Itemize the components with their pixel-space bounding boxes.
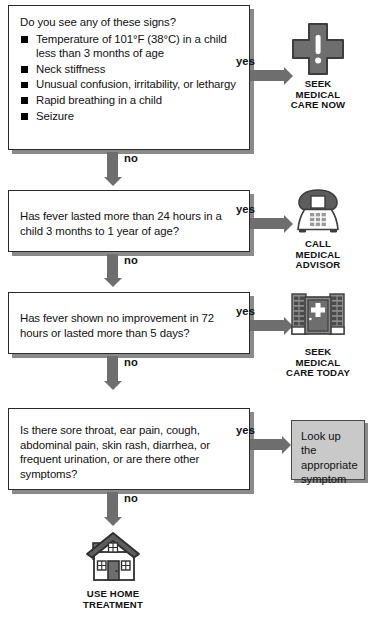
question-box-4[interactable]: Is there sore throat, ear pain, cough, a… (8, 408, 250, 490)
house-icon (71, 530, 155, 586)
outcome-caption: SEEK MEDICAL CARE NOW (276, 79, 360, 111)
edge-label-q2-yes: yes (236, 203, 255, 215)
result-box-text: Look up the appropriate symptom (301, 429, 355, 487)
outcome-seek-medical-care-now[interactable]: SEEK MEDICAL CARE NOW (276, 22, 360, 111)
edge-label-q3-yes: yes (236, 305, 255, 317)
question-2-prompt: Has fever lasted more than 24 hours in a… (20, 200, 238, 238)
outcome-seek-medical-care-today[interactable]: SEEK MEDICAL CARE TODAY (276, 292, 360, 379)
list-item: Seizure (20, 109, 238, 124)
outcome-call-medical-advisor[interactable]: CALL MEDICAL ADVISOR (276, 186, 360, 271)
question-1-prompt: Do you see any of these signs? (20, 15, 238, 30)
list-item: Temperature of 101°F (38°C) in a child l… (20, 32, 238, 61)
edge-label-q4-no: no (124, 492, 138, 504)
telephone-icon (276, 186, 360, 236)
outcome-caption: CALL MEDICAL ADVISOR (276, 239, 360, 271)
outcome-look-up-symptom[interactable]: Look up the appropriate symptom (291, 420, 365, 480)
outcome-caption: SEEK MEDICAL CARE TODAY (276, 347, 360, 379)
outcome-use-home-treatment[interactable]: USE HOME TREATMENT (71, 530, 155, 610)
cross-exclamation-icon (276, 22, 360, 76)
edge-label-q1-yes: yes (236, 55, 255, 67)
list-item: Rapid breathing in a child (20, 93, 238, 108)
question-box-3[interactable]: Has fever shown no improvement in 72 hou… (8, 292, 250, 354)
outcome-caption: USE HOME TREATMENT (71, 589, 155, 610)
question-1-signs-list: Temperature of 101°F (38°C) in a child l… (20, 32, 238, 124)
question-box-2[interactable]: Has fever lasted more than 24 hours in a… (8, 190, 250, 252)
list-item: Neck stiffness (20, 62, 238, 77)
list-item: Unusual confusion, irritability, or leth… (20, 77, 238, 92)
edge-label-q3-no: no (124, 356, 138, 368)
question-box-1[interactable]: Do you see any of these signs? Temperatu… (8, 5, 250, 150)
question-3-prompt: Has fever shown no improvement in 72 hou… (20, 302, 238, 340)
edge-label-q1-no: no (124, 152, 138, 164)
edge-label-q4-yes: yes (236, 424, 255, 436)
hospital-icon (276, 292, 360, 344)
edge-label-q2-no: no (124, 254, 138, 266)
question-4-prompt: Is there sore throat, ear pain, cough, a… (20, 418, 238, 481)
flowchart-canvas: Do you see any of these signs? Temperatu… (0, 0, 370, 625)
